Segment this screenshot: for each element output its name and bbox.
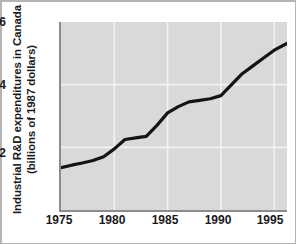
chart-figure: Industrial R&D expenditures in Canada (b… [0, 0, 296, 244]
y-axis-label: Industrial R&D expenditures in Canada (b… [2, 2, 48, 216]
plot-area [59, 22, 287, 212]
y-axis-label-line-2: (billions of 1987 dollars) [25, 4, 39, 213]
x-tick-label-1975: 1975 [37, 214, 81, 226]
y-axis-label-line-1: Industrial R&D expenditures in Canada [12, 4, 24, 213]
y-tick-label-2: 2 [0, 147, 6, 159]
x-tick-label-1990: 1990 [196, 214, 240, 226]
x-tick-label-1985: 1985 [143, 214, 187, 226]
plot-svg [61, 22, 287, 210]
data-series-line [61, 43, 287, 167]
gridlines [61, 22, 287, 210]
x-tick-label-1980: 1980 [90, 214, 134, 226]
x-tick-label-1995: 1995 [248, 214, 292, 226]
y-tick-label-6: 6 [0, 16, 6, 28]
y-tick-label-4: 4 [0, 79, 6, 91]
